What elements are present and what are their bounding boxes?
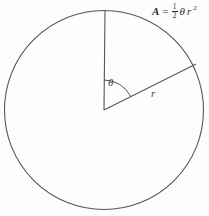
angle-arc [104,80,131,97]
diagram-canvas: θ r A = 1 2 θ r 2 [0,0,209,216]
vertical-radius-line [104,10,105,110]
geometry-illustration [0,0,209,216]
slanted-radius-line [104,64,196,110]
